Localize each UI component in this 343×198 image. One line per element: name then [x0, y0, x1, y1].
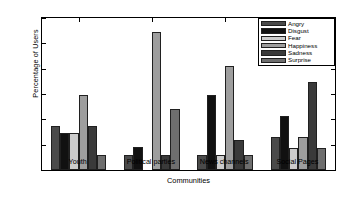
y-axis-tick [42, 43, 46, 44]
bar [97, 155, 106, 170]
legend-label: Fear [288, 35, 301, 41]
y-axis-tick [42, 170, 46, 171]
legend-label: Surprise [288, 57, 311, 63]
x-axis-tick-label: Youth [69, 157, 87, 166]
y-axis-tick-right [331, 94, 335, 95]
x-axis-tick-top [225, 18, 226, 22]
x-axis-tick-top [152, 18, 153, 22]
legend-label: Disgust [288, 28, 309, 34]
y-axis-tick-right [331, 145, 335, 146]
legend-label: Angry [288, 21, 304, 27]
bar [152, 32, 161, 170]
figure-canvas: Percentage of Users 0102030405060 Commun… [0, 0, 343, 198]
x-axis-tick-top [79, 18, 80, 22]
bar [88, 126, 97, 170]
legend-swatch [261, 43, 286, 48]
legend-swatch [261, 36, 286, 41]
y-axis-tick [42, 94, 46, 95]
y-axis-tick-right [331, 69, 335, 70]
legend-item: Surprise [261, 57, 332, 64]
legend-label: Happiness [288, 43, 317, 49]
y-axis-tick [42, 145, 46, 146]
y-axis-tick [42, 69, 46, 70]
y-axis-tick-right [331, 170, 335, 171]
legend-swatch [261, 21, 286, 26]
y-axis-tick [42, 18, 46, 19]
y-axis-tick [42, 119, 46, 120]
legend-swatch [261, 50, 286, 55]
legend: AngryDisgustFearHappinessSadnessSurprise [258, 18, 335, 66]
y-axis-tick-right [331, 119, 335, 120]
x-axis-tick-label: Social Pages [276, 157, 318, 166]
legend-label: Sadness [288, 50, 312, 56]
x-axis-tick-label: News channels [200, 157, 249, 166]
legend-item: Fear [261, 35, 332, 42]
x-axis-tick-label: Political parties [127, 157, 175, 166]
legend-swatch [261, 28, 286, 33]
y-axis-title: Percentage of Users [31, 0, 40, 129]
x-axis-title: Communities [41, 176, 336, 185]
bar [225, 66, 234, 170]
bar [51, 126, 60, 170]
legend-swatch [261, 58, 286, 63]
